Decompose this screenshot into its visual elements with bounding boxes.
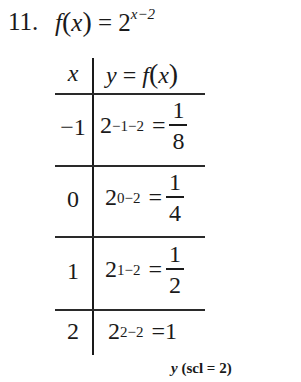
row-rule (55, 309, 205, 311)
row-y-expression: 21−2 = 1 2 (105, 242, 184, 297)
open-paren: ( (62, 6, 71, 37)
header-y-func: f (142, 62, 149, 88)
row-fraction: 1 2 (166, 242, 184, 297)
base: 2 (118, 9, 131, 36)
axis-name: y (171, 360, 178, 376)
row-rule (55, 165, 205, 167)
row-base: 2 (105, 184, 117, 211)
row-base: 2 (108, 318, 120, 345)
row-y-expression: 22−2 =1 (108, 318, 177, 345)
problem-number: 11. (8, 8, 38, 36)
header-y-var: y (106, 62, 117, 88)
row-equals: = (152, 112, 166, 139)
header-x: x (55, 60, 91, 87)
row-base: 2 (100, 112, 112, 139)
row-base: 2 (105, 256, 117, 283)
graph-axis-label: y (scl = 2) (171, 360, 232, 377)
open-paren: ( (149, 58, 158, 89)
fraction-numerator: 1 (168, 170, 182, 196)
fraction-denominator: 4 (169, 198, 181, 225)
header-y-arg: x (158, 62, 169, 88)
exponent: x−2 (131, 6, 155, 22)
row-equals: = (148, 256, 162, 283)
function-variable: x (71, 9, 82, 36)
header-y-eq: = (123, 62, 137, 88)
row-rule (55, 236, 205, 238)
fraction-numerator: 1 (171, 98, 185, 124)
row-y-expression: 20−2 = 1 4 (105, 170, 184, 225)
row-equals: = (151, 318, 165, 345)
row-equals: = (148, 184, 162, 211)
axis-scale: (scl = 2) (181, 360, 231, 376)
row-x-value: 0 (55, 186, 91, 213)
fraction-denominator: 8 (172, 126, 184, 153)
row-y-expression: 2−1−2 = 1 8 (100, 98, 187, 153)
row-x-value: −1 (55, 114, 91, 141)
close-paren: ) (82, 6, 91, 37)
header-y: y = f(x) (106, 58, 178, 90)
row-fraction: 1 8 (169, 98, 187, 153)
row-result: 1 (165, 318, 177, 345)
function-definition: f(x) = 2x−2 (55, 6, 155, 38)
close-paren: ) (169, 58, 178, 89)
fraction-denominator: 2 (169, 270, 181, 297)
header-rule (55, 93, 205, 95)
row-fraction: 1 4 (166, 170, 184, 225)
row-x-value: 2 (55, 318, 91, 345)
row-x-value: 1 (55, 258, 91, 285)
equals-sign: = (98, 9, 112, 36)
fraction-numerator: 1 (168, 242, 182, 268)
function-name: f (55, 9, 62, 36)
